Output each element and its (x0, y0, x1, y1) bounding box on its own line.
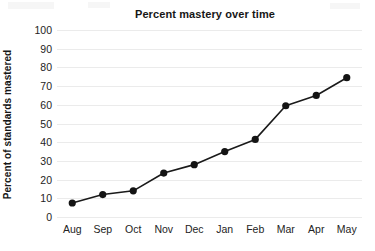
y-tick-label: 0 (22, 212, 52, 223)
line-chart-figure: Percent mastery over time Percent of sta… (0, 0, 375, 251)
y-tick-label: 50 (22, 118, 52, 129)
series-markers (69, 74, 351, 206)
x-tick-label: Nov (154, 224, 173, 235)
data-point-marker (221, 148, 228, 155)
y-axis-tick-labels: 0102030405060708090100 (18, 30, 52, 217)
y-tick-label: 60 (22, 100, 52, 111)
y-tick-label: 40 (22, 137, 52, 148)
y-tick-label: 20 (22, 174, 52, 185)
y-axis-title: Percent of standards mastered (0, 25, 16, 223)
y-axis-title-text: Percent of standards mastered (3, 49, 14, 199)
data-point-marker (282, 102, 289, 109)
x-tick-label: Apr (308, 224, 324, 235)
y-tick-label: 30 (22, 156, 52, 167)
gridline (57, 217, 362, 218)
data-point-marker (191, 161, 198, 168)
y-tick-label: 100 (22, 25, 52, 36)
data-point-marker (99, 191, 106, 198)
scan-artifact (8, 2, 54, 9)
y-tick-label: 80 (22, 62, 52, 73)
x-tick-label: Feb (246, 224, 264, 235)
x-tick-label: May (337, 224, 357, 235)
data-point-marker (130, 187, 137, 194)
x-tick-label: Mar (277, 224, 295, 235)
x-axis-tick-labels: AugSepOctNovDecJanFebMarAprMay (57, 224, 362, 240)
y-tick-label: 10 (22, 193, 52, 204)
data-point-marker (343, 74, 350, 81)
x-tick-label: Jan (216, 224, 233, 235)
x-tick-label: Oct (125, 224, 141, 235)
data-point-marker (160, 169, 167, 176)
chart-title: Percent mastery over time (55, 8, 355, 20)
data-point-marker (252, 136, 259, 143)
series-svg (57, 30, 362, 217)
plot-area (57, 30, 362, 217)
x-tick-label: Sep (93, 224, 112, 235)
x-tick-label: Dec (185, 224, 204, 235)
x-tick-label: Aug (63, 224, 82, 235)
y-tick-label: 70 (22, 81, 52, 92)
data-point-marker (69, 199, 76, 206)
y-tick-label: 90 (22, 43, 52, 54)
data-point-marker (313, 92, 320, 99)
series-line (72, 78, 347, 203)
